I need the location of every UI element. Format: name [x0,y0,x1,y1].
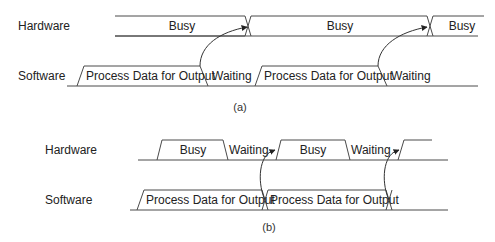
sw-segment-process-1: Process Data for Output [86,69,215,83]
hw-segment-waiting-1b: Waiting [229,143,269,157]
sw-segment-process-1b: Process Data for Output [146,193,275,207]
timing-diagram: Hardware Software Busy Busy Busy Process… [0,0,495,242]
handoff-arrow-a1 [200,27,247,66]
hw-segment-busy-1b: Busy [180,143,207,157]
panel-a: Hardware Software Busy Busy Busy Process… [18,16,484,113]
hardware-label-a: Hardware [18,19,70,33]
hardware-label-b: Hardware [45,143,97,157]
software-label-b: Software [45,193,93,207]
caption-b: (b) [262,221,275,233]
caption-a: (a) [233,101,246,113]
hw-segment-busy-2: Busy [327,19,354,33]
handoff-arrow-a2 [378,27,427,66]
hw-segment-busy-1: Busy [169,19,196,33]
sw-segment-waiting-1: Waiting [212,69,252,83]
hw-segment-waiting-2b: Waiting [351,143,391,157]
sw-segment-waiting-2: Waiting [391,69,431,83]
software-label-a: Software [18,69,66,83]
panel-b: Hardware Software Busy Waiting Busy Wait… [45,140,448,233]
hw-segment-busy-3: Busy [449,19,476,33]
sw-segment-process-2: Process Data for Output [264,69,393,83]
hw-segment-busy-2b: Busy [300,143,327,157]
sw-segment-process-2b: Process Data for Output [270,193,399,207]
